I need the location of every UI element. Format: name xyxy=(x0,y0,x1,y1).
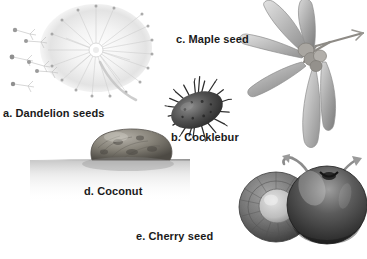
label-cherry-seed: e. Cherry seed xyxy=(136,230,213,242)
maple-samara-illustration xyxy=(240,0,363,147)
label-maple-seed: c. Maple seed xyxy=(176,33,249,45)
label-coconut: d. Coconut xyxy=(84,185,142,197)
seed-dispersal-figure: a. Dandelion seeds b. Cocklebur c. Maple… xyxy=(0,0,367,259)
dandelion-illustration xyxy=(10,4,154,100)
label-cocklebur: b. Cocklebur xyxy=(171,131,239,143)
cherry-illustration xyxy=(239,154,367,244)
label-dandelion-seeds: a. Dandelion seeds xyxy=(3,107,104,119)
